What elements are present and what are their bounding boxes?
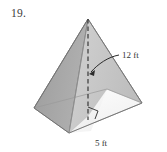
base-edge-dimension-label: 5 ft: [95, 138, 108, 148]
height-dimension-label: 12 ft: [122, 50, 139, 60]
square-pyramid-diagram: 12 ft 5 ft: [0, 0, 167, 152]
geometry-figure-container: 19.: [0, 0, 167, 152]
